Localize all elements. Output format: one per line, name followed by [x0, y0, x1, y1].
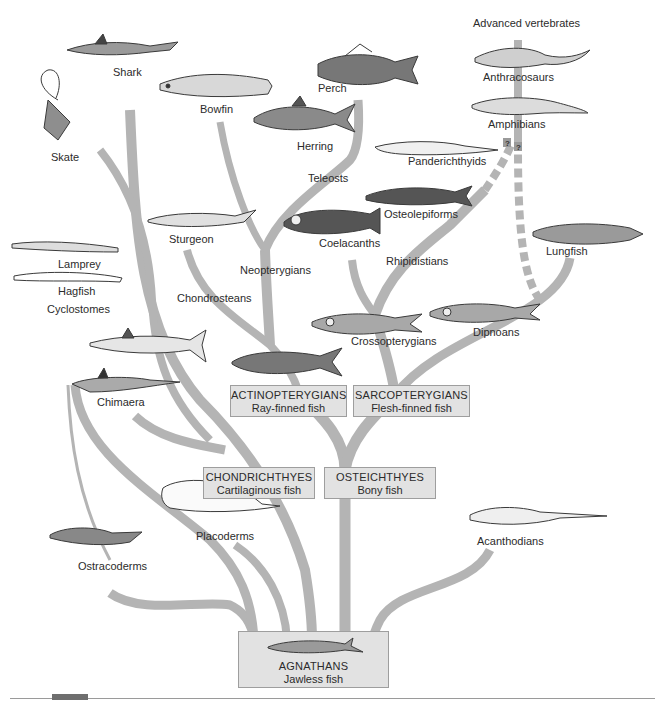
- bottom-rule: [10, 698, 655, 699]
- label-lungfish: Lungfish: [546, 245, 588, 258]
- dipnoan-icon: [430, 304, 540, 322]
- label-teleosts: Teleosts: [308, 172, 348, 185]
- label-panderichthyids: Panderichthyids: [408, 155, 486, 168]
- coelacanth-icon: [284, 208, 380, 234]
- acanthodian-icon: [470, 507, 607, 524]
- label-amphibians: Amphibians: [488, 118, 545, 131]
- jawless-fish-icon: [265, 636, 365, 658]
- skate-icon: [41, 70, 70, 140]
- bottom-rule-tab: [52, 694, 88, 700]
- branch-acanthodians: [373, 550, 490, 640]
- lungfish-icon: [533, 224, 643, 244]
- label-neopterygians: Neopterygians: [240, 264, 311, 277]
- crossopterygian-icon: [312, 314, 422, 334]
- actinopterygians-common: Ray-finned fish: [231, 402, 346, 415]
- chondrichthyes-name: CHONDRICHTHYES: [204, 471, 314, 484]
- branch-dashed-panderichthyids: [485, 145, 511, 190]
- label-rhipidistians: Rhipidistians: [386, 255, 448, 268]
- chondrichthyes-common: Cartilaginous fish: [204, 484, 314, 497]
- anthracosaur-icon: [475, 48, 590, 67]
- agnathans-name: AGNATHANS: [239, 660, 388, 673]
- branch-chimaera: [135, 416, 225, 450]
- label-lamprey: Lamprey: [58, 258, 101, 271]
- label-acanthodians: Acanthodians: [477, 535, 544, 548]
- shark-icon: [67, 34, 178, 55]
- ray-finned-fish-icon: [232, 348, 342, 376]
- agnathans-common: Jawless fish: [239, 673, 388, 686]
- branch-coelacanths: [352, 260, 375, 315]
- label-advanced-vertebrates: Advanced vertebrates: [473, 17, 580, 30]
- osteichthyes-common: Bony fish: [325, 484, 435, 497]
- label-chondrosteans: Chondrosteans: [177, 292, 252, 305]
- herring-icon: [254, 96, 355, 132]
- label-osteolepiforms: Osteolepiforms: [384, 208, 458, 221]
- branch-bowfin: [220, 122, 265, 250]
- amphibian-icon: [472, 98, 588, 115]
- branch-chondrichthyes-main: [130, 110, 312, 640]
- acanthodian-shark-icon: [90, 328, 206, 362]
- label-herring: Herring: [297, 140, 333, 153]
- label-skate: Skate: [51, 151, 79, 164]
- sarcopterygians-name: SARCOPTERYGIANS: [354, 389, 469, 402]
- label-placoderms: Placoderms: [196, 530, 254, 543]
- osteolepiform-icon: [366, 186, 472, 206]
- hagfish-icon: [14, 272, 122, 282]
- sarcopterygians-common: Flesh-finned fish: [354, 402, 469, 415]
- branch-ostracoderms: [110, 593, 254, 640]
- label-bowfin: Bowfin: [200, 103, 233, 116]
- label-dipnoans: Dipnoans: [473, 326, 519, 339]
- label-shark: Shark: [113, 66, 142, 79]
- label-sturgeon: Sturgeon: [169, 233, 214, 246]
- label-chimaera: Chimaera: [97, 396, 145, 409]
- label-anthracosaurs: Anthracosaurs: [483, 71, 554, 84]
- perch-icon: [318, 44, 418, 85]
- panderichthyid-icon: [375, 142, 498, 155]
- phylogeny-tree: ? ?: [0, 0, 659, 702]
- osteichthyes-name: OSTEICHTHYES: [325, 471, 435, 484]
- label-ostracoderms: Ostracoderms: [78, 560, 147, 573]
- question-mark-panderichthyid: ?: [505, 139, 510, 148]
- bowfin-icon: [160, 74, 272, 96]
- actinopterygians-name: ACTINOPTERYGIANS: [231, 389, 346, 402]
- box-osteichthyes: OSTEICHTHYES Bony fish: [324, 467, 436, 499]
- label-cyclostomes: Cyclostomes: [47, 303, 110, 316]
- label-coelacanths: Coelacanths: [319, 237, 380, 250]
- branch-dashed-lungfish: [518, 150, 540, 300]
- label-crossopterygians: Crossopterygians: [351, 335, 437, 348]
- box-sarcopterygians: SARCOPTERYGIANS Flesh-finned fish: [353, 385, 470, 417]
- box-chondrichthyes: CHONDRICHTHYES Cartilaginous fish: [203, 467, 315, 499]
- question-mark-lungfish: ?: [516, 143, 521, 152]
- box-agnathans: AGNATHANS Jawless fish: [238, 631, 389, 688]
- ostracoderm-icon: [50, 528, 142, 545]
- label-perch: Perch: [318, 82, 347, 95]
- lamprey-icon: [12, 242, 118, 252]
- box-actinopterygians: ACTINOPTERYGIANS Ray-finned fish: [230, 385, 347, 417]
- label-hagfish: Hagfish: [58, 285, 95, 298]
- sturgeon-icon: [148, 210, 256, 227]
